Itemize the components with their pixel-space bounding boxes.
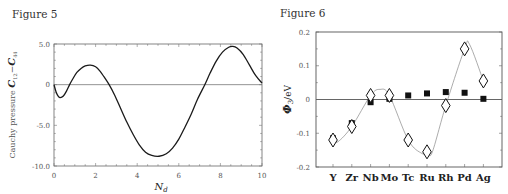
x-category-label: Zr [346, 172, 359, 183]
x-category-label: Mo [381, 172, 399, 183]
diamond-marker [329, 133, 338, 147]
y-axis-label: Φ3/eV [281, 85, 295, 114]
diamond-marker [460, 42, 469, 56]
x-tick-label: 4 [135, 172, 140, 180]
x-tick-label: 2 [93, 172, 97, 180]
y-tick-label: -0.2 [297, 164, 311, 172]
square-marker [405, 92, 411, 98]
x-category-label: Pd [457, 172, 472, 183]
x-category-label: Y [328, 172, 337, 183]
y-axis-label: Cauchy pressure C12−C44 [6, 51, 18, 158]
diamond-marker [423, 145, 432, 159]
x-axis-label: Nd [153, 181, 168, 193]
square-marker [424, 90, 430, 96]
y-tick-label: 5.0 [39, 41, 50, 49]
square-marker [462, 90, 468, 96]
diamond-marker [442, 99, 451, 113]
y-tick-label: 0.2 [299, 29, 310, 37]
x-tick-label: 0 [52, 172, 56, 180]
plot-frame [54, 44, 262, 166]
data-curve [54, 46, 262, 156]
figure-5-chart: 02468105.00-5.0-10.0NdCauchy pressure C1… [6, 41, 266, 194]
x-tick-label: 6 [177, 172, 182, 180]
square-marker [480, 96, 486, 102]
x-category-label: Ru [419, 172, 435, 183]
figure-6-chart: 0.20.10-0.1-0.2YZrNbMoTcRuRhPdAgΦ3/eV [281, 29, 502, 184]
y-tick-label: -10.0 [32, 163, 50, 171]
x-category-label: Nb [363, 172, 379, 183]
y-tick-label: 0 [46, 81, 50, 89]
square-marker [443, 89, 449, 95]
charts-canvas: 02468105.00-5.0-10.0NdCauchy pressure C1… [0, 0, 508, 193]
diamond-marker [479, 74, 488, 88]
x-tick-label: 8 [218, 172, 222, 180]
y-tick-label: 0 [306, 96, 310, 104]
y-tick-label: 0.1 [299, 62, 310, 70]
x-category-label: Ag [475, 172, 491, 183]
y-tick-label: -0.1 [297, 130, 311, 138]
x-category-label: Tc [402, 172, 414, 183]
x-tick-label: 10 [258, 172, 267, 180]
x-category-label: Rh [438, 172, 454, 183]
y-tick-label: -5.0 [37, 122, 51, 130]
